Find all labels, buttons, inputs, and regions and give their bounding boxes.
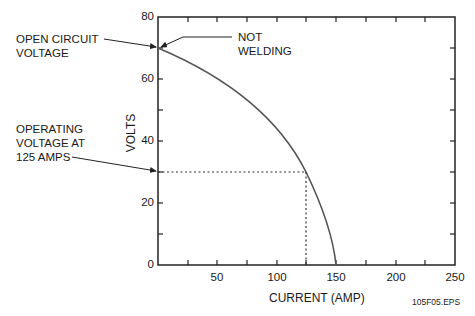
y-axis-ticks bbox=[158, 48, 455, 234]
x-tick-50: 50 bbox=[202, 271, 232, 283]
not-welding-label: NOT WELDING bbox=[238, 30, 292, 58]
y-tick-0: 0 bbox=[130, 258, 154, 270]
volt-ampere-curve bbox=[158, 48, 336, 265]
open-circuit-label-line2: VOLTAGE bbox=[16, 46, 98, 60]
y-axis-label: VOLTS bbox=[124, 114, 138, 152]
open-circuit-arrow bbox=[104, 39, 156, 47]
y-tick-80: 80 bbox=[130, 10, 154, 22]
figure-id: 105F05.EPS bbox=[412, 295, 460, 309]
x-tick-150: 150 bbox=[321, 271, 351, 283]
y-tick-60: 60 bbox=[130, 72, 154, 84]
x-tick-250: 250 bbox=[440, 271, 470, 283]
operating-label-line1: OPERATING bbox=[16, 122, 85, 136]
open-circuit-label: OPEN CIRCUIT VOLTAGE bbox=[16, 32, 98, 60]
operating-label-line2: VOLTAGE AT bbox=[16, 136, 85, 150]
operating-label-line3: 125 AMPS bbox=[16, 150, 85, 164]
x-axis-label: CURRENT (AMP) bbox=[269, 291, 365, 305]
not-welding-arrow bbox=[161, 37, 232, 47]
not-welding-label-line1: NOT bbox=[238, 30, 292, 44]
open-circuit-label-line1: OPEN CIRCUIT bbox=[16, 32, 98, 46]
y-tick-20: 20 bbox=[130, 196, 154, 208]
operating-voltage-label: OPERATING VOLTAGE AT 125 AMPS bbox=[16, 122, 85, 164]
x-tick-200: 200 bbox=[381, 271, 411, 283]
x-tick-100: 100 bbox=[262, 271, 292, 283]
not-welding-label-line2: WELDING bbox=[238, 44, 292, 58]
